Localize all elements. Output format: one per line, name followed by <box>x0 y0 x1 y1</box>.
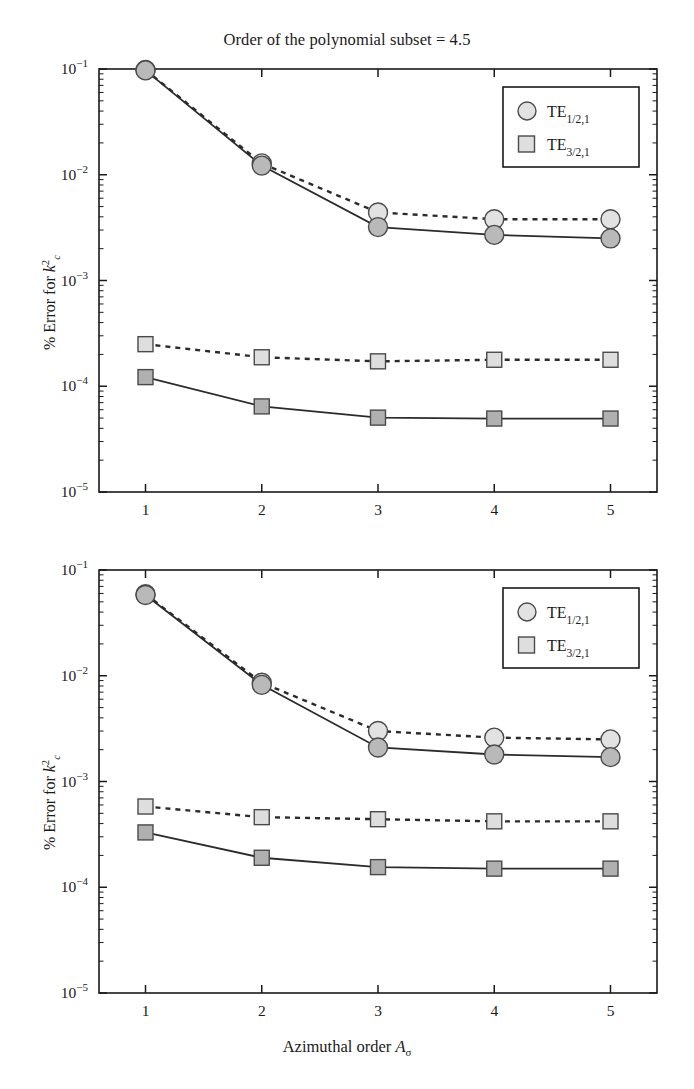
figure-root: Order of the polynomial subset = 4.5 10−… <box>0 0 694 1089</box>
data-point-square-marker <box>254 350 269 365</box>
data-point-square-marker <box>254 850 269 865</box>
data-point-square-marker <box>487 814 502 829</box>
y-axis-label-top: % Error for k2c <box>40 255 62 350</box>
y-tick-label: 10−1 <box>61 558 88 578</box>
y-axis-label-sup: 2 <box>40 260 51 265</box>
data-point-square-marker <box>603 352 618 367</box>
x-axis-label-symbol: A <box>395 1037 405 1056</box>
x-axis-label: Azimuthal order Aσ <box>0 1037 694 1058</box>
legend-square-icon <box>519 136 535 152</box>
data-point-square-marker <box>371 812 386 827</box>
data-point-circle-marker <box>136 586 155 605</box>
data-point-circle-marker <box>369 738 388 757</box>
x-axis-label-sub: σ <box>405 1046 411 1058</box>
data-point-circle-marker <box>369 218 388 237</box>
plot-area-bottom: 10−110−210−310−410−512345TE1/2,1TE3/2,1 <box>0 500 694 1089</box>
data-point-square-marker <box>487 861 502 876</box>
data-point-square-marker <box>603 411 618 426</box>
data-point-circle-marker <box>485 745 504 764</box>
y-axis-label-text: % Error for <box>41 772 58 850</box>
data-point-circle-marker <box>252 675 271 694</box>
x-tick-label: 3 <box>374 1002 382 1019</box>
data-point-square-marker <box>254 399 269 414</box>
y-axis-label-text: % Error for <box>41 272 58 350</box>
data-point-square-marker <box>371 354 386 369</box>
data-point-square-marker <box>487 352 502 367</box>
y-tick-label: 10−5 <box>61 480 89 500</box>
chart-panel-bottom: 10−110−210−310−410−512345TE1/2,1TE3/2,1 <box>0 500 694 1089</box>
x-tick-label: 4 <box>490 1002 498 1019</box>
y-tick-label: 10−1 <box>61 57 88 77</box>
legend-circle-icon <box>518 603 536 621</box>
y-axis-label-sup: 2 <box>40 760 51 765</box>
y-tick-label: 10−2 <box>61 664 88 684</box>
y-axis-label-symbol: k <box>41 265 58 272</box>
data-point-circle-marker <box>601 748 620 767</box>
data-point-square-marker <box>371 860 386 875</box>
data-point-square-marker <box>254 810 269 825</box>
plot-area-top: 10−110−210−310−410−512345TE1/2,1TE3/2,1 <box>0 0 694 540</box>
y-axis-label-sub: c <box>51 755 62 760</box>
legend-square-icon <box>519 637 535 653</box>
data-point-circle-marker <box>485 225 504 244</box>
x-tick-label: 1 <box>142 1002 150 1019</box>
data-point-square-marker <box>138 825 153 840</box>
data-point-square-marker <box>138 799 153 814</box>
y-axis-label-bottom: % Error for k2c <box>40 755 62 850</box>
y-axis-label-sub: c <box>51 255 62 260</box>
y-tick-label: 10−5 <box>61 981 89 1001</box>
legend-circle-icon <box>518 102 536 120</box>
data-point-circle-marker <box>136 61 155 80</box>
data-point-square-marker <box>138 370 153 385</box>
y-tick-label: 10−2 <box>61 163 88 183</box>
y-tick-label: 10−4 <box>61 875 89 895</box>
y-axis-label-symbol: k <box>41 765 58 772</box>
x-tick-label: 5 <box>607 1002 615 1019</box>
y-tick-label: 10−3 <box>61 770 89 790</box>
data-point-square-marker <box>138 337 153 352</box>
data-point-circle-marker <box>601 229 620 248</box>
data-point-circle-marker <box>601 730 620 749</box>
data-point-square-marker <box>487 411 502 426</box>
data-point-square-marker <box>603 814 618 829</box>
data-point-circle-marker <box>601 210 620 229</box>
chart-panel-top: Order of the polynomial subset = 4.5 10−… <box>0 0 694 540</box>
y-tick-label: 10−3 <box>61 269 89 289</box>
x-tick-label: 2 <box>258 1002 266 1019</box>
data-point-square-marker <box>371 410 386 425</box>
data-point-square-marker <box>603 861 618 876</box>
x-axis-label-text: Azimuthal order <box>283 1037 396 1056</box>
y-tick-label: 10−4 <box>61 374 89 394</box>
data-point-circle-marker <box>252 156 271 175</box>
data-point-circle-marker <box>485 728 504 747</box>
